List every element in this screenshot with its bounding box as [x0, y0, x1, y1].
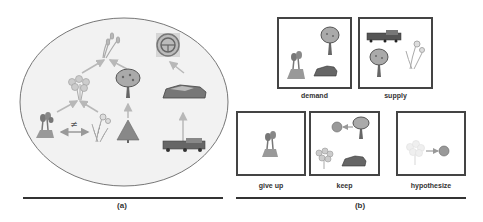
faded-flower-bouquet-icon — [407, 141, 425, 166]
flower-bouquet-icon — [316, 148, 333, 169]
panel-b-caption: (b) — [330, 201, 390, 210]
fruit-tree-icon — [321, 27, 339, 55]
panel-a-ellipse — [20, 18, 228, 186]
tulips-icon — [262, 131, 278, 157]
keep-label: keep — [309, 182, 380, 189]
demand-label: demand — [277, 92, 352, 99]
hypothesize-box — [396, 111, 466, 176]
sports-car-icon — [342, 156, 366, 166]
fruit-tree-icon — [370, 49, 388, 77]
panel-a-divider — [23, 197, 223, 199]
panel-a-caption: (a) — [92, 201, 152, 210]
panel-b-divider — [236, 197, 466, 199]
supply-box — [358, 17, 433, 89]
orange-ball-icon — [332, 122, 342, 132]
not-equal-symbol: ≠ — [70, 119, 78, 129]
supply-label: supply — [358, 92, 433, 99]
daffodil-icon — [406, 41, 425, 69]
hypothesize-label: hypothesize — [396, 182, 466, 189]
sports-car-icon — [314, 66, 337, 76]
orange-ball-icon — [439, 146, 449, 156]
keep-box — [309, 111, 380, 176]
truck-train-icon — [367, 30, 401, 43]
fruit-tree-icon — [353, 117, 369, 139]
give-up-label: give up — [236, 182, 306, 189]
give-up-box — [236, 111, 306, 176]
tulips-icon — [287, 51, 305, 79]
demand-box — [277, 17, 352, 89]
steering-wheel-badge-icon — [156, 33, 180, 57]
